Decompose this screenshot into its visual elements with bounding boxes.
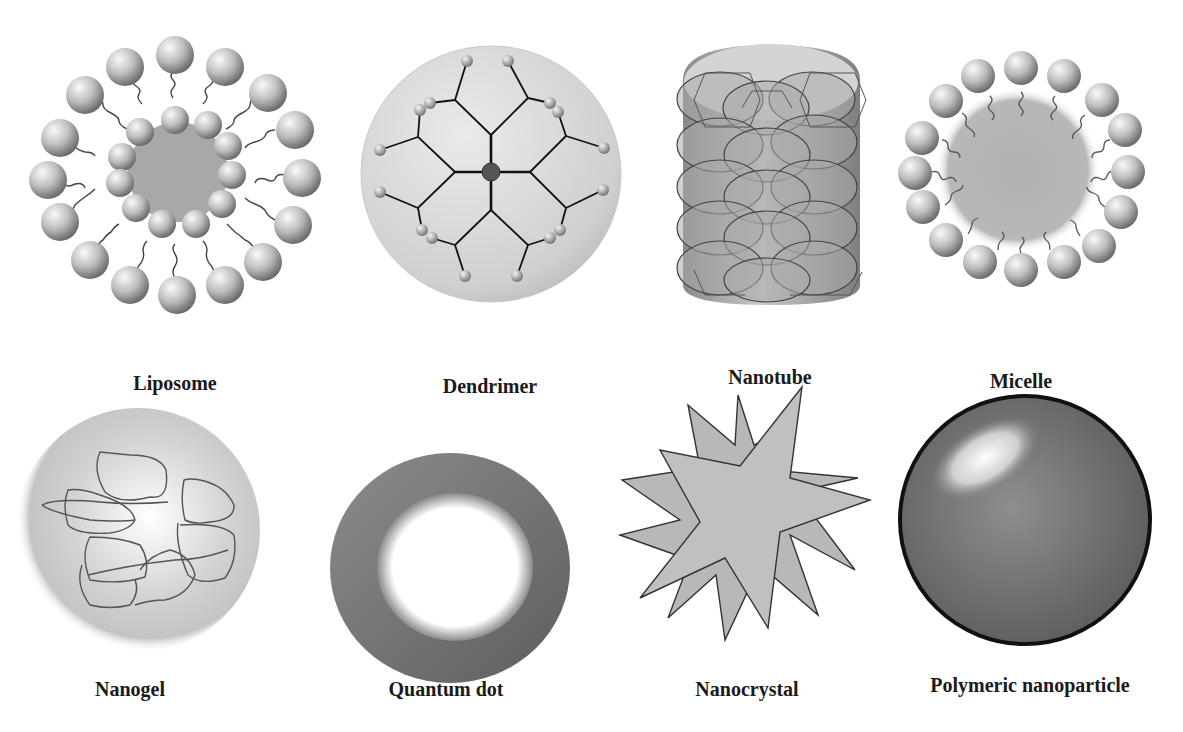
micelle-graphic	[898, 51, 1145, 287]
nanotube-graphic	[677, 44, 866, 305]
label-quantum-dot: Quantum dot	[388, 678, 503, 701]
nanocarrier-diagram	[0, 0, 1183, 732]
label-nanocrystal: Nanocrystal	[695, 678, 798, 701]
label-nanogel: Nanogel	[95, 678, 165, 701]
liposome-graphic	[29, 36, 321, 314]
label-micelle: Micelle	[990, 370, 1052, 393]
dendrimer-graphic	[361, 46, 621, 302]
nanocrystal-graphic	[620, 387, 870, 640]
label-nanotube: Nanotube	[728, 366, 811, 389]
nanogel-graphic	[16, 408, 260, 652]
quantum-dot-graphic	[330, 453, 570, 683]
label-liposome: Liposome	[133, 372, 216, 395]
polymeric-nanoparticle-graphic	[900, 396, 1150, 644]
label-dendrimer: Dendrimer	[443, 375, 537, 398]
label-polymeric-nanoparticle: Polymeric nanoparticle	[930, 674, 1129, 697]
